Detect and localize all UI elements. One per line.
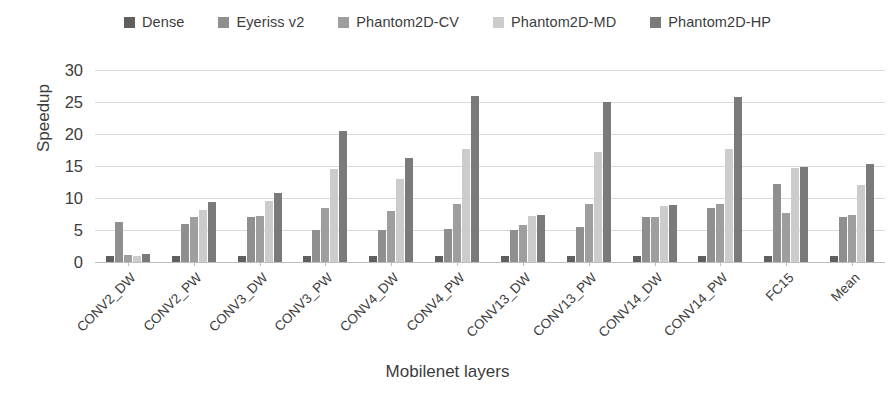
bar xyxy=(857,185,865,262)
legend-label: Eyeriss v2 xyxy=(236,14,304,30)
bar xyxy=(330,169,338,262)
bar xyxy=(839,217,847,262)
legend-swatch-icon xyxy=(650,17,661,28)
y-tick-label: 30 xyxy=(65,61,83,80)
bar xyxy=(115,222,123,262)
bar xyxy=(791,168,799,262)
bar xyxy=(378,230,386,262)
x-tick-label-cell: Mean xyxy=(819,268,885,358)
y-tick-label: 0 xyxy=(74,253,83,272)
bar xyxy=(734,97,742,262)
bar-group xyxy=(819,70,885,262)
bar-group xyxy=(424,70,490,262)
y-tick-label: 10 xyxy=(65,189,83,208)
plot-area: 051015202530 xyxy=(95,70,885,262)
legend-item-dense: Dense xyxy=(124,14,184,30)
legend-label: Phantom2D-CV xyxy=(356,14,459,30)
bar xyxy=(274,193,282,262)
bar xyxy=(339,131,347,262)
bar xyxy=(265,201,273,262)
y-axis-title: Speedup xyxy=(34,58,54,178)
bar xyxy=(585,204,593,262)
bar xyxy=(453,204,461,262)
bar-group xyxy=(687,70,753,262)
bar xyxy=(773,184,781,262)
x-tick-label-cell: FC15 xyxy=(753,268,819,358)
y-tick-label: 5 xyxy=(74,221,83,240)
bar-group xyxy=(753,70,819,262)
bar xyxy=(208,202,216,262)
bar-group xyxy=(227,70,293,262)
bar xyxy=(181,224,189,262)
bar xyxy=(142,254,150,262)
chart-legend: Dense Eyeriss v2 Phantom2D-CV Phantom2D-… xyxy=(0,14,895,30)
bar xyxy=(716,204,724,262)
bar xyxy=(537,215,545,262)
x-tick-label: Mean xyxy=(828,270,862,304)
bar xyxy=(321,208,329,262)
bar-group xyxy=(622,70,688,262)
legend-item-eyeriss-v2: Eyeriss v2 xyxy=(218,14,304,30)
bar xyxy=(782,213,790,262)
bar xyxy=(519,225,527,262)
bar xyxy=(190,217,198,262)
bar xyxy=(510,230,518,262)
bar xyxy=(800,167,808,262)
bar-group xyxy=(358,70,424,262)
bar xyxy=(669,205,677,262)
bar-group xyxy=(161,70,227,262)
x-tick-label-cell: CONV14_PW xyxy=(687,268,753,358)
bar-group xyxy=(556,70,622,262)
bar xyxy=(444,229,452,262)
bar xyxy=(725,149,733,262)
bar xyxy=(866,164,874,262)
bar xyxy=(387,211,395,262)
legend-swatch-icon xyxy=(124,17,135,28)
bar xyxy=(651,217,659,262)
bar xyxy=(642,217,650,262)
bar-group xyxy=(490,70,556,262)
bar xyxy=(124,255,132,262)
legend-swatch-icon xyxy=(493,17,504,28)
x-tick-label: FC15 xyxy=(763,270,797,304)
bar xyxy=(312,230,320,262)
bar xyxy=(396,179,404,262)
legend-label: Dense xyxy=(142,14,184,30)
bar xyxy=(603,102,611,262)
speedup-bar-chart: Dense Eyeriss v2 Phantom2D-CV Phantom2D-… xyxy=(0,0,895,412)
bar xyxy=(528,216,536,262)
bar xyxy=(462,149,470,262)
legend-item-phantom2d-hp: Phantom2D-HP xyxy=(650,14,771,30)
bar xyxy=(405,158,413,262)
bar xyxy=(660,206,668,262)
bar xyxy=(247,217,255,262)
bar xyxy=(199,210,207,262)
legend-item-phantom2d-cv: Phantom2D-CV xyxy=(338,14,459,30)
x-axis-tick-labels: CONV2_DWCONV2_PWCONV3_DWCONV3_PWCONV4_DW… xyxy=(95,268,885,358)
y-tick-label: 20 xyxy=(65,125,83,144)
bar xyxy=(471,96,479,262)
legend-label: Phantom2D-MD xyxy=(511,14,616,30)
legend-swatch-icon xyxy=(218,17,229,28)
y-tick-label: 15 xyxy=(65,157,83,176)
y-tick-label: 25 xyxy=(65,93,83,112)
legend-label: Phantom2D-HP xyxy=(668,14,771,30)
x-axis-title: Mobilenet layers xyxy=(0,362,895,382)
x-axis-baseline xyxy=(95,262,885,263)
bar xyxy=(707,208,715,262)
bar-group xyxy=(95,70,161,262)
bar xyxy=(594,152,602,262)
legend-item-phantom2d-md: Phantom2D-MD xyxy=(493,14,616,30)
bar xyxy=(256,216,264,262)
bar xyxy=(848,215,856,262)
legend-swatch-icon xyxy=(338,17,349,28)
bar-groups xyxy=(95,70,885,262)
bar xyxy=(576,227,584,262)
bar-group xyxy=(292,70,358,262)
x-tick-label: CONV2_DW xyxy=(74,270,139,335)
